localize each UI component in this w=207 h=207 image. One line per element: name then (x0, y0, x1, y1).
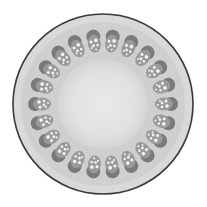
pith-cell-texture (58, 59, 148, 149)
stem-section (13, 14, 193, 194)
vascular-bundle (155, 97, 178, 111)
micrograph (0, 0, 207, 207)
stem-cross-section-image (0, 0, 207, 207)
vascular-bundle (28, 97, 51, 111)
